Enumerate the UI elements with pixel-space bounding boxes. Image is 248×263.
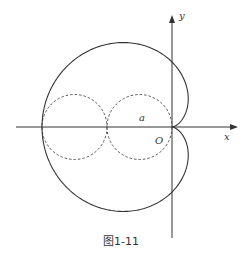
caption-text: 图1-11 <box>103 235 139 248</box>
x-axis-arrow-icon <box>230 124 238 130</box>
figure-caption: 图1-11 <box>0 232 248 248</box>
x-axis-label: x <box>224 131 230 142</box>
cardioid-diagram: y x O a <box>0 0 248 263</box>
y-axis-arrow-icon <box>169 15 175 23</box>
origin-label: O <box>155 135 163 146</box>
y-axis-label: y <box>178 10 185 21</box>
radius-label: a <box>139 112 145 123</box>
